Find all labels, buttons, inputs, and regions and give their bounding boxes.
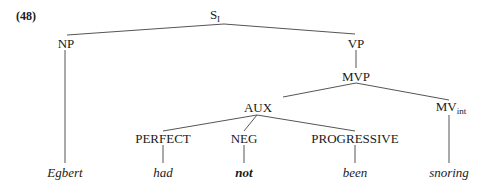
example-number: (48) [16,9,36,24]
leaf-been: been [343,166,368,179]
node-mv-subscript: int [457,106,467,116]
node-progressive: PROGRESSIVE [311,132,398,145]
edge-aux-progressive [257,115,355,131]
node-vp: VP [348,37,365,50]
leaf-egbert: Egbert [47,166,82,179]
node-mvp: MVP [342,70,370,83]
node-neg: NEG [231,132,258,145]
edge-s-np [67,24,224,35]
node-s: SI [210,8,220,24]
leaf-had: had [153,166,173,179]
edge-mvp-mv [356,83,449,100]
node-np: NP [58,37,75,50]
edge-s-vp [224,24,355,34]
node-s-subscript: I [217,14,220,24]
edge-mvp-aux [283,83,356,97]
node-mv-label: MV [436,99,457,114]
edge-aux-neg [244,115,257,131]
node-aux: AUX [244,101,272,114]
node-mv: MVint [436,100,466,116]
edge-aux-perfect [163,115,257,131]
node-perfect: PERFECT [135,132,191,145]
leaf-not: not [235,166,252,179]
leaf-snoring: snoring [429,166,469,179]
tree-edges [0,0,488,184]
